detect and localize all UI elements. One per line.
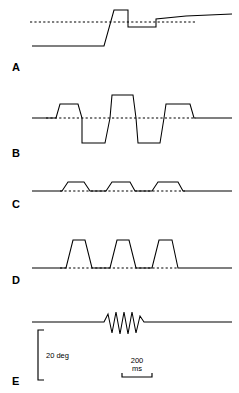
- panel-letter-a: A: [12, 62, 20, 73]
- trace-b: [32, 95, 232, 143]
- horizontal-scale-units: ms: [132, 364, 142, 373]
- waveform-figure: ABCDE 20 deg 200 ms: [0, 0, 239, 393]
- trace-a: [32, 10, 232, 46]
- traces-group: [32, 10, 232, 334]
- vertical-scale-label: 20 deg: [46, 352, 69, 360]
- baselines-group: [30, 22, 196, 268]
- trace-e: [32, 312, 232, 334]
- panel-letter-b: B: [12, 148, 20, 159]
- trace-c: [32, 182, 232, 191]
- panel-letter-e: E: [12, 376, 19, 387]
- panel-letter-c: C: [12, 199, 20, 210]
- trace-layer: [0, 0, 239, 393]
- horizontal-scale-label: 200 ms: [122, 357, 152, 373]
- horizontal-scale-bar: [122, 373, 152, 377]
- trace-d: [32, 240, 232, 268]
- vertical-scale-bar: [38, 330, 44, 380]
- panel-letter-d: D: [12, 275, 20, 286]
